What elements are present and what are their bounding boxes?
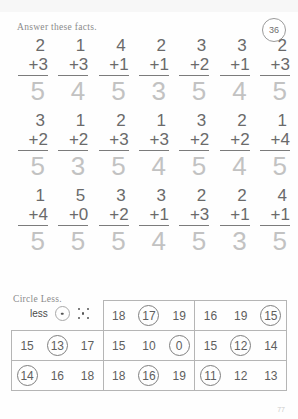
facts-instruction: Answer these facts. bbox=[17, 22, 97, 32]
fact-answer[interactable]: 5 bbox=[273, 77, 290, 105]
fact-addend-bottom: +4 bbox=[271, 130, 290, 149]
number-option[interactable]: 10 bbox=[138, 335, 159, 356]
circled-number-option[interactable]: 13 bbox=[47, 335, 68, 356]
addition-fact: 4+15 bbox=[254, 186, 290, 255]
fact-addend-top: 1 bbox=[76, 36, 88, 55]
addition-fact: 3+25 bbox=[173, 111, 209, 180]
fact-addend-bottom: +2 bbox=[109, 205, 128, 224]
addition-fact: 5+05 bbox=[52, 186, 88, 255]
number-option[interactable]: 19 bbox=[230, 305, 251, 326]
addition-fact: 3+25 bbox=[12, 111, 48, 180]
fact-answer[interactable]: 5 bbox=[31, 152, 48, 180]
number-option[interactable]: 14 bbox=[260, 335, 281, 356]
fact-answer[interactable]: 5 bbox=[111, 227, 128, 255]
number-group-cell: 151214 bbox=[195, 331, 287, 361]
number-option[interactable]: 12 bbox=[230, 365, 251, 386]
fact-addend-top: 4 bbox=[278, 186, 290, 205]
number-option[interactable]: 15 bbox=[200, 335, 221, 356]
number-option[interactable]: 15 bbox=[17, 335, 38, 356]
fact-answer[interactable]: 5 bbox=[192, 152, 209, 180]
fact-addend-bottom: +1 bbox=[150, 55, 169, 74]
fact-addend-bottom: +2 bbox=[230, 130, 249, 149]
fact-addend-bottom: +3 bbox=[29, 55, 48, 74]
fact-answer[interactable]: 4 bbox=[152, 227, 169, 255]
fact-addend-top: 3 bbox=[197, 36, 209, 55]
circled-number-option[interactable]: 15 bbox=[260, 305, 281, 326]
fact-addend-bottom: +4 bbox=[29, 205, 48, 224]
fact-answer[interactable]: 4 bbox=[71, 77, 88, 105]
fact-row: 3+251+232+351+343+252+241+45 bbox=[12, 111, 290, 180]
fact-answer[interactable]: 3 bbox=[232, 227, 249, 255]
fact-answer[interactable]: 5 bbox=[273, 152, 290, 180]
fact-answer[interactable]: 5 bbox=[31, 77, 48, 105]
addition-fact: 2+13 bbox=[133, 36, 169, 105]
number-option[interactable]: 16 bbox=[200, 305, 221, 326]
addition-fact: 3+14 bbox=[133, 186, 169, 255]
fact-addend-bottom: +0 bbox=[69, 205, 88, 224]
number-option[interactable]: 15 bbox=[108, 335, 129, 356]
number-option[interactable]: 16 bbox=[47, 365, 68, 386]
fact-answer[interactable]: 3 bbox=[71, 152, 88, 180]
fact-answer[interactable]: 4 bbox=[152, 152, 169, 180]
circled-number-option[interactable]: 12 bbox=[230, 335, 251, 356]
addition-fact: 2+35 bbox=[12, 36, 48, 105]
fact-addend-bottom: +2 bbox=[190, 130, 209, 149]
fact-row: 1+455+053+253+142+352+134+15 bbox=[12, 186, 290, 255]
fact-answer[interactable]: 5 bbox=[111, 152, 128, 180]
page-number: 77 bbox=[277, 406, 285, 413]
number-group-cell: 161915 bbox=[195, 301, 287, 331]
addition-fact: 4+15 bbox=[93, 36, 129, 105]
fact-addend-bottom: +3 bbox=[150, 130, 169, 149]
number-option[interactable]: 17 bbox=[77, 335, 98, 356]
fact-addend-top: 2 bbox=[197, 186, 209, 205]
number-group-cell: 15100 bbox=[103, 331, 195, 361]
fact-addend-top: 3 bbox=[36, 111, 48, 130]
fact-answer[interactable]: 5 bbox=[111, 77, 128, 105]
fact-addend-bottom: +1 bbox=[230, 55, 249, 74]
number-option[interactable]: 13 bbox=[260, 365, 281, 386]
fact-answer[interactable]: 4 bbox=[232, 152, 249, 180]
fact-addend-top: 4 bbox=[116, 36, 128, 55]
fact-answer[interactable]: 4 bbox=[232, 77, 249, 105]
fact-answer[interactable]: 5 bbox=[71, 227, 88, 255]
circled-number-option[interactable]: 14 bbox=[17, 365, 38, 386]
fact-answer[interactable]: 5 bbox=[31, 227, 48, 255]
fact-addend-bottom: +1 bbox=[271, 205, 290, 224]
number-option[interactable]: 18 bbox=[77, 365, 98, 386]
addition-fact: 1+23 bbox=[52, 111, 88, 180]
number-option[interactable]: 19 bbox=[169, 305, 190, 326]
fact-answer[interactable]: 3 bbox=[152, 77, 169, 105]
number-group-cell: 151317 bbox=[12, 331, 104, 361]
fact-answer[interactable]: 5 bbox=[192, 77, 209, 105]
number-group-cell: 181719 bbox=[103, 301, 195, 331]
addition-fact: 2+24 bbox=[214, 111, 250, 180]
addition-fact: 1+34 bbox=[52, 36, 88, 105]
number-option[interactable]: 18 bbox=[108, 305, 129, 326]
page-top-strip bbox=[0, 0, 298, 12]
fact-addend-top: 5 bbox=[76, 186, 88, 205]
worksheet-page: Answer these facts. 36 2+351+344+152+133… bbox=[0, 0, 298, 419]
fact-addend-bottom: +1 bbox=[109, 55, 128, 74]
fact-answer[interactable]: 5 bbox=[192, 227, 209, 255]
addition-fact: 2+13 bbox=[214, 186, 250, 255]
fact-addend-top: 3 bbox=[237, 36, 249, 55]
circled-number-option[interactable]: 11 bbox=[200, 365, 221, 386]
fact-addend-bottom: +2 bbox=[190, 55, 209, 74]
table-row: 15131715100151214 bbox=[12, 331, 287, 361]
fact-addend-top: 1 bbox=[36, 186, 48, 205]
circled-number-option[interactable]: 16 bbox=[138, 365, 159, 386]
addition-facts-grid: 2+351+344+152+133+253+142+353+251+232+35… bbox=[12, 36, 290, 261]
fact-answer[interactable]: 5 bbox=[273, 227, 290, 255]
circle-less-table: 1817191619151513171510015121414161818161… bbox=[11, 300, 287, 391]
number-option[interactable]: 19 bbox=[169, 365, 190, 386]
fact-addend-bottom: +3 bbox=[190, 205, 209, 224]
fact-addend-bottom: +3 bbox=[69, 55, 88, 74]
fact-addend-bottom: +1 bbox=[230, 205, 249, 224]
number-group-cell: 141618 bbox=[12, 361, 104, 391]
fact-addend-bottom: +3 bbox=[271, 55, 290, 74]
circled-number-option[interactable]: 17 bbox=[138, 305, 159, 326]
addition-fact: 3+25 bbox=[93, 186, 129, 255]
circled-number-option[interactable]: 0 bbox=[169, 335, 190, 356]
number-option[interactable]: 18 bbox=[108, 365, 129, 386]
addition-fact: 2+35 bbox=[254, 36, 290, 105]
